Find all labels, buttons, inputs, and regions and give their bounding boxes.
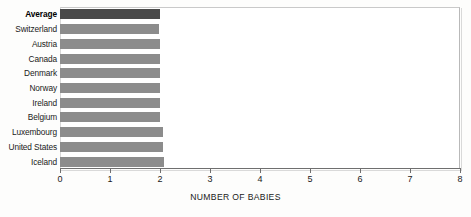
category-label: Denmark [0, 68, 57, 78]
bar-row: Norway [0, 81, 471, 96]
bar [60, 83, 160, 93]
bar-row: Canada [0, 51, 471, 66]
x-axis-tick-label: 6 [350, 174, 370, 184]
x-axis-tick-label: 1 [100, 174, 120, 184]
x-axis-tick [210, 169, 211, 173]
bar-row: Average [0, 7, 471, 22]
category-label: Canada [0, 54, 57, 64]
x-axis-tick-label: 4 [250, 174, 270, 184]
x-axis-tick-label: 8 [450, 174, 470, 184]
x-axis-tick [60, 169, 61, 173]
bar-rows: AverageSwitzerlandAustriaCanadaDenmarkNo… [0, 7, 471, 169]
category-label: Norway [0, 83, 57, 93]
x-axis-tick-label: 5 [300, 174, 320, 184]
x-axis-title: NUMBER OF BABIES [0, 192, 471, 202]
chart-screenshot: AverageSwitzerlandAustriaCanadaDenmarkNo… [0, 0, 471, 217]
category-label: Switzerland [0, 24, 57, 34]
x-axis-tick [260, 169, 261, 173]
x-axis-tick [410, 169, 411, 173]
bar [60, 54, 160, 64]
bar [60, 157, 164, 167]
x-axis-tick-label: 2 [150, 174, 170, 184]
bar-row: Denmark [0, 66, 471, 81]
category-label: Average [0, 9, 57, 19]
bar-row: Iceland [0, 154, 471, 169]
bar [60, 24, 159, 34]
bar-row: Switzerland [0, 22, 471, 37]
bar-row: Belgium [0, 110, 471, 125]
bar-row: Austria [0, 36, 471, 51]
bar-row: Ireland [0, 95, 471, 110]
bar [60, 112, 160, 122]
bar [60, 68, 160, 78]
x-axis-tick-label: 7 [400, 174, 420, 184]
x-axis-tick [360, 169, 361, 173]
bar [60, 127, 163, 137]
category-label: Iceland [0, 157, 57, 167]
x-axis-tick-label: 0 [50, 174, 70, 184]
category-label: Belgium [0, 112, 57, 122]
category-label: Austria [0, 39, 57, 49]
category-label: Ireland [0, 98, 57, 108]
bar [60, 142, 163, 152]
x-axis-tick-label: 3 [200, 174, 220, 184]
bar [60, 98, 160, 108]
x-axis-tick [160, 169, 161, 173]
bar [60, 9, 160, 19]
bar-row: United States [0, 140, 471, 155]
category-label: United States [0, 142, 57, 152]
category-label: Luxembourg [0, 127, 57, 137]
x-axis-tick [460, 169, 461, 173]
x-axis-tick [310, 169, 311, 173]
bar [60, 39, 160, 49]
bar-row: Luxembourg [0, 125, 471, 140]
x-axis-tick [110, 169, 111, 173]
